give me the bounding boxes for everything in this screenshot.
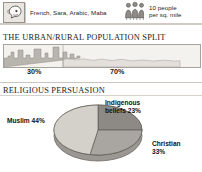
three-people-icon: [124, 1, 144, 20]
divider-top: [0, 23, 202, 25]
pie-label-muslim: Muslim 44%: [7, 117, 45, 125]
urban-rural-illustration: [3, 44, 201, 68]
pie-label-indigenous-line1: Indigenous: [105, 99, 140, 106]
country-factfile-panel: French, Sara, Arabic, Maba: [0, 0, 202, 172]
speaking-head-icon: [3, 2, 25, 23]
pie-label-christian-line1: Christian: [152, 140, 181, 147]
facts-row: French, Sara, Arabic, Maba: [0, 0, 202, 23]
urban-rural-percent-labels: 30% 70%: [0, 67, 202, 77]
rural-percent-label: 70%: [110, 67, 124, 76]
population-density-fact: 10 people per sq. mile: [124, 1, 182, 20]
pie-label-christian-line2: 33%: [152, 148, 181, 156]
population-density-fact-text: 10 people per sq. mile: [149, 4, 182, 18]
language-fact-text: French, Sara, Arabic, Maba: [30, 9, 107, 16]
religion-section-title: RELIGIOUS PERSUASION: [3, 86, 105, 95]
divider-middle: [0, 82, 202, 83]
urban-percent-label: 30%: [27, 67, 41, 76]
density-line-2: per sq. mile: [149, 11, 182, 18]
language-fact: French, Sara, Arabic, Maba: [3, 2, 107, 23]
pie-label-christian: Christian 33%: [152, 140, 181, 155]
density-line-1: 10 people: [149, 4, 177, 11]
pie-label-indigenous-line2: beliefs 23%: [105, 107, 141, 115]
pie-label-indigenous: Indigenous beliefs 23%: [105, 99, 141, 114]
urban-rural-section-title: THE URBAN/RURAL POPULATION SPLIT: [3, 33, 166, 42]
